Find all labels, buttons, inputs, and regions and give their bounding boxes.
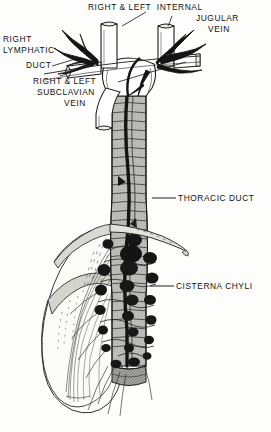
anatomical-figure-page: RIGHT & LEFT INTERNAL JUGULAR VEIN RIGHT…	[0, 0, 271, 432]
label-subclavian-vein-line1: RIGHT & LEFT	[33, 76, 96, 87]
label-right-lymphatic-duct-line2: LYMPHATIC	[3, 45, 55, 56]
leader-jugular-left	[122, 12, 146, 26]
label-internal-jugular-vein-line2: JUGULAR	[196, 13, 239, 24]
figure-linework	[42, 12, 206, 416]
label-internal-jugular-vein-line3: VEIN	[208, 24, 230, 35]
label-right-lymphatic-duct-line1: RIGHT	[3, 34, 32, 45]
label-subclavian-vein-line2: SUBCLAVIAN	[37, 87, 95, 98]
label-internal-jugular-vein-line1: RIGHT & LEFT INTERNAL	[88, 2, 203, 13]
label-right-lymphatic-duct-line3: DUCT	[26, 60, 51, 71]
label-cisterna-chyli: CISTERNA CHYLI	[176, 281, 253, 292]
label-thoracic-duct: THORACIC DUCT	[178, 193, 254, 204]
label-subclavian-vein-line3: VEIN	[64, 98, 86, 109]
